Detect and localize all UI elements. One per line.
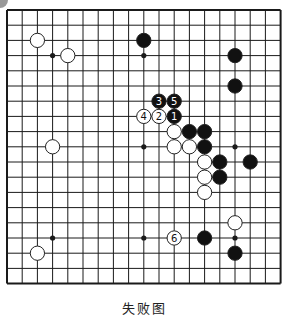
hoshi-point [232,144,237,149]
white-stone [30,33,44,47]
hoshi-point [50,235,55,240]
white-stone [167,140,181,154]
black-stone [228,79,242,93]
black-stone [228,246,242,260]
move-number: 4 [141,111,147,122]
black-stone: 5 [167,94,181,108]
move-number: 2 [156,111,162,122]
black-stone: 1 [167,109,181,123]
white-stone [45,140,59,154]
white-stone [228,216,242,230]
black-stone: 3 [152,94,166,108]
black-stone [137,33,151,47]
black-stone [182,124,196,138]
white-stone [197,155,211,169]
white-stone [197,185,211,199]
black-stone [197,231,211,245]
hoshi-point [141,144,146,149]
move-number: 1 [171,111,177,122]
hoshi-point [232,235,237,240]
white-stone [61,48,75,62]
move-number: 5 [171,96,177,107]
move-number: 6 [171,233,177,244]
white-stone [197,170,211,184]
white-stone: 2 [152,109,166,123]
black-stone [243,155,257,169]
move-number: 3 [156,96,162,107]
black-stone [228,48,242,62]
white-stone [167,124,181,138]
black-stone [213,155,227,169]
white-stone: 4 [137,109,151,123]
black-stone [213,170,227,184]
white-stone [182,140,196,154]
white-stone: 6 [167,231,181,245]
diagram-caption: 失败图 [0,298,288,317]
black-stone [197,140,211,154]
hoshi-point [50,53,55,58]
hoshi-point [141,53,146,58]
hoshi-point [141,235,146,240]
black-stone [197,124,211,138]
go-board: 354216 [0,0,288,296]
white-stone [30,246,44,260]
